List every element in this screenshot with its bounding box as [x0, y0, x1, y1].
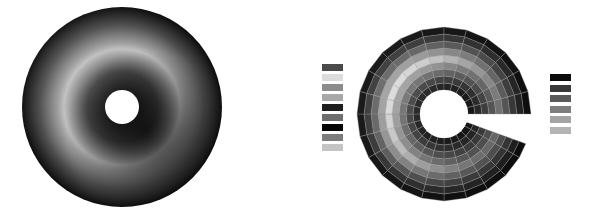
legend-swatch	[322, 104, 343, 111]
center-hole	[105, 90, 139, 124]
legend-swatch	[322, 114, 343, 121]
legend-swatch	[322, 84, 343, 91]
legend-swatch	[550, 85, 571, 92]
smooth-shaded-annulus	[22, 6, 224, 208]
legend-swatch	[550, 95, 571, 102]
legend-right	[550, 74, 571, 137]
segmented-annulus-graphic	[356, 26, 532, 202]
legend-left	[322, 64, 343, 154]
legend-swatch	[550, 106, 571, 113]
segmented-annulus	[356, 26, 532, 202]
legend-swatch	[322, 134, 343, 141]
legend-swatch	[322, 94, 343, 101]
legend-swatch	[322, 74, 343, 81]
legend-swatch	[550, 116, 571, 123]
legend-swatch	[322, 144, 343, 151]
annulus-graphic	[22, 6, 224, 208]
legend-swatch	[550, 127, 571, 134]
center-hole	[420, 90, 468, 138]
legend-swatch	[322, 124, 343, 131]
legend-swatch	[322, 64, 343, 71]
legend-swatch	[550, 74, 571, 81]
